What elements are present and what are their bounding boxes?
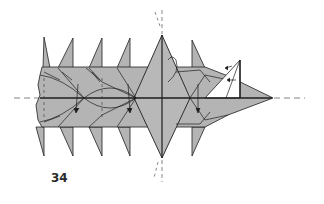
- origami-diagram: [0, 0, 324, 204]
- top-spikes: [43, 37, 205, 68]
- step-number: 34: [51, 172, 68, 184]
- bottom-spikes: [36, 127, 205, 156]
